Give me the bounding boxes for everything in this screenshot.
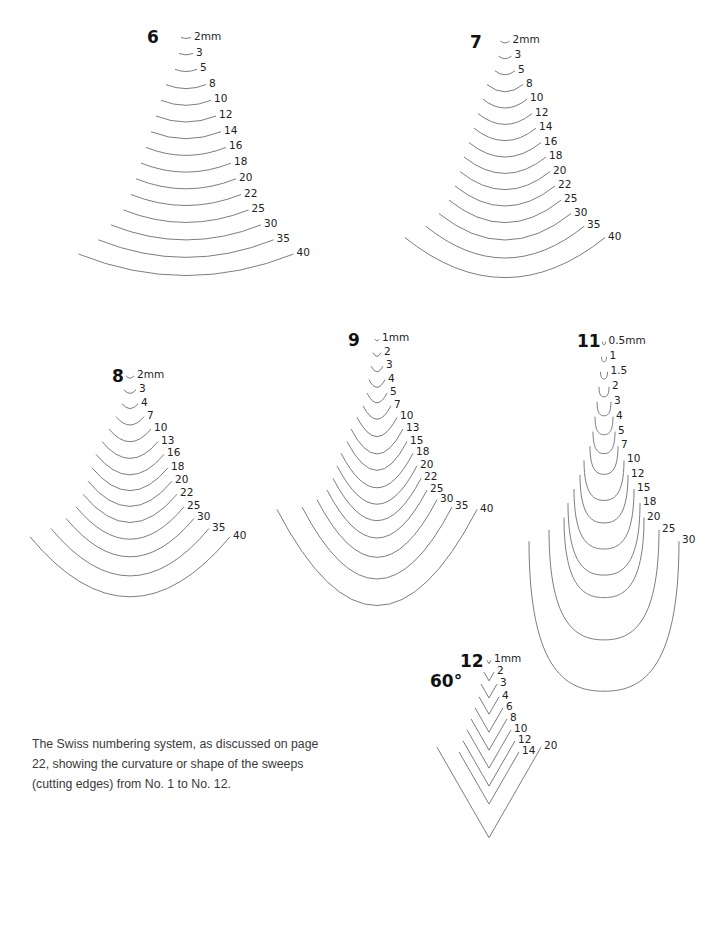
sweep-profile xyxy=(601,372,608,379)
size-label: 2mm xyxy=(513,33,540,45)
sweep-profile xyxy=(175,69,197,71)
sweep-profile xyxy=(479,697,499,714)
size-label: 20 xyxy=(647,510,660,522)
size-label: 30 xyxy=(197,510,210,522)
size-label: 20 xyxy=(175,473,188,485)
size-label: 8 xyxy=(526,77,533,89)
size-label: 20 xyxy=(553,164,566,176)
sweep-profile xyxy=(337,466,417,504)
sweep-profile xyxy=(481,684,497,698)
sweep-number-9: 9 xyxy=(348,330,360,350)
sweep-profile xyxy=(83,494,177,522)
sweep-profile xyxy=(111,225,261,240)
figure-caption: The Swiss numbering system, as discussed… xyxy=(32,734,332,794)
size-label: 0.5mm xyxy=(609,334,646,346)
sweep-profile xyxy=(371,366,383,372)
sweep-profile xyxy=(464,157,546,173)
size-label: 14 xyxy=(522,744,536,756)
size-label: 35 xyxy=(277,232,290,244)
sweep-profile xyxy=(369,380,385,388)
size-label: 10 xyxy=(400,409,413,421)
sweep-profile xyxy=(467,730,511,768)
size-label: 22 xyxy=(424,470,437,482)
sweep-profile xyxy=(475,708,503,732)
size-label: 35 xyxy=(455,499,468,511)
sweep-profile xyxy=(363,406,391,419)
size-label: 10 xyxy=(627,452,640,464)
size-label: 35 xyxy=(587,218,600,230)
size-label: 22 xyxy=(558,178,571,190)
size-label: 2 xyxy=(497,664,504,676)
sweep-profile xyxy=(455,186,555,206)
size-label: 13 xyxy=(161,434,174,446)
size-label: 2 xyxy=(612,379,619,391)
sweep-profile xyxy=(564,518,644,598)
size-label: 30 xyxy=(264,217,277,229)
size-label: 10 xyxy=(154,421,167,433)
size-label: 4 xyxy=(388,372,395,384)
sweep-profile xyxy=(124,210,249,223)
sweep-profile xyxy=(483,99,527,108)
sweep-profile xyxy=(590,446,618,474)
size-label: 5 xyxy=(518,63,525,75)
sweep-profile xyxy=(317,500,437,558)
sweep-profile xyxy=(136,179,236,189)
sweep-profile xyxy=(141,163,231,172)
size-label: 3 xyxy=(515,48,522,60)
sweep-profile xyxy=(102,442,158,459)
size-label: 30 xyxy=(574,206,587,218)
size-label: 1mm xyxy=(494,652,521,664)
sweep-profile xyxy=(161,100,211,105)
sweep-profile xyxy=(529,541,679,691)
sweep-number-12: 12 xyxy=(460,651,484,671)
size-label: 12 xyxy=(219,108,232,120)
size-label: 20 xyxy=(239,171,252,183)
size-label: 4 xyxy=(141,396,148,408)
size-label: 40 xyxy=(233,529,246,541)
sweep-profile xyxy=(122,404,138,409)
sweep-profile xyxy=(166,85,206,89)
size-label: 5 xyxy=(200,61,207,73)
sweep-profile xyxy=(367,393,387,403)
size-label: 18 xyxy=(171,460,184,472)
size-label: 3 xyxy=(386,358,393,370)
sweep-profile xyxy=(603,342,606,345)
sweep-number-6: 6 xyxy=(147,27,159,47)
sweep-profile xyxy=(597,402,611,416)
size-label: 2 xyxy=(384,345,391,357)
size-label: 25 xyxy=(662,522,675,534)
size-label: 18 xyxy=(643,495,656,507)
sweep-profile xyxy=(469,143,541,157)
size-label: 25 xyxy=(187,499,200,511)
size-label: 12 xyxy=(535,106,548,118)
size-label: 20 xyxy=(544,739,557,751)
size-label: 1 xyxy=(610,349,617,361)
size-label: 18 xyxy=(416,445,429,457)
size-label: 1mm xyxy=(382,331,409,343)
sweep-profile xyxy=(109,429,151,442)
size-label: 7 xyxy=(621,438,628,450)
sweep-profile xyxy=(131,195,241,206)
size-label: 7 xyxy=(394,398,401,410)
sweep-profile xyxy=(124,390,136,394)
size-label: 40 xyxy=(480,502,493,514)
sweep-profile xyxy=(333,478,421,520)
size-label: 15 xyxy=(410,434,423,446)
size-label: 18 xyxy=(234,155,247,167)
sweep-profile xyxy=(437,747,541,837)
sweep-profile xyxy=(460,172,550,190)
sweep-profile xyxy=(580,475,628,523)
sweep-profile xyxy=(599,387,609,397)
size-label: 3 xyxy=(614,394,621,406)
sweep-profile xyxy=(146,147,226,155)
size-label: 40 xyxy=(297,246,310,258)
sweep-profile xyxy=(463,741,515,786)
sweep-profile xyxy=(373,353,381,357)
sweep-profile xyxy=(99,240,274,258)
size-label: 30 xyxy=(682,533,695,545)
size-label: 13 xyxy=(406,421,419,433)
size-label: 5 xyxy=(390,385,397,397)
sweep-profile xyxy=(357,417,397,436)
size-label: 16 xyxy=(544,135,558,147)
sweep-profile xyxy=(66,518,194,556)
